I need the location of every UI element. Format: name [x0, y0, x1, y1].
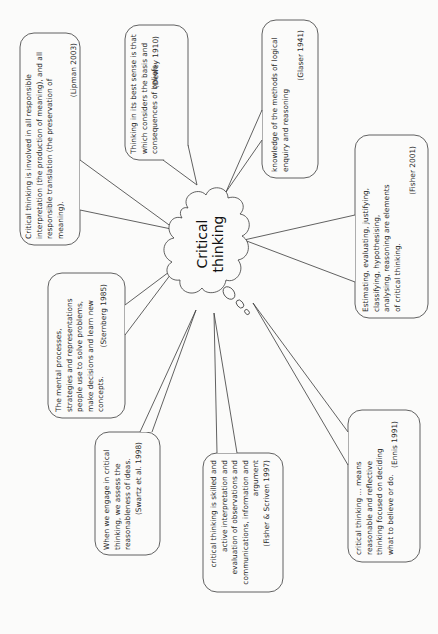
bubble-fisher-2001-text: Estimating, evaluating, justifying, clas… — [361, 182, 403, 312]
bubble-dewey-content: Thinking in its best sense is that which… — [129, 32, 185, 154]
bubble-ennis: critical thinking ... means reasonable a… — [348, 410, 420, 562]
mind-map: Critical thinking Critical thinking is i… — [0, 0, 438, 634]
bubble-swartz-content: When we engage in critical thinking, we … — [102, 438, 154, 550]
bubble-swartz: When we engage in critical thinking, we … — [95, 432, 160, 555]
bubble-swartz-text: When we engage in critical thinking, we … — [102, 438, 134, 550]
central-topic-label: Critical thinking — [194, 216, 226, 273]
bubble-swartz-citation: (Swartz et al. 1998) — [133, 438, 144, 550]
bubble-fisher-2001: Estimating, evaluating, justifying, clas… — [355, 135, 428, 318]
bubble-glaser-text: knowledge of the methods of logical enqu… — [270, 26, 291, 172]
bubble-fisher-scriven-citation: (Fisher & Scriven 1997) — [262, 460, 273, 586]
bubble-ennis-content: critical thinking ... means reasonable a… — [354, 417, 414, 555]
bubble-sternberg-content: The mental processes, strategies and rep… — [54, 280, 120, 412]
bubble-fisher-scriven-content: critical thinking is skilled and active … — [209, 460, 277, 586]
central-topic: Critical thinking — [170, 196, 250, 292]
bubble-dewey: Thinking in its best sense is that which… — [125, 25, 188, 160]
bubble-fisher-scriven-text: critical thinking is skilled and active … — [209, 460, 262, 586]
central-topic-line1: Critical — [194, 216, 210, 273]
bubble-fisher-scriven: critical thinking is skilled and active … — [203, 453, 283, 592]
bubble-lipman-content: Critical thinking is involved in all res… — [24, 39, 76, 239]
bubble-fisher-2001-content: Estimating, evaluating, justifying, clas… — [361, 142, 423, 312]
bubble-glaser: knowledge of the methods of logical enqu… — [262, 20, 318, 178]
bubble-lipman-text: Critical thinking is involved in all res… — [24, 39, 66, 239]
bubble-glaser-citation: (Glaser 1941) — [296, 26, 307, 172]
bubble-glaser-content: knowledge of the methods of logical enqu… — [270, 26, 310, 172]
bubble-sternberg: The mental processes, strategies and rep… — [48, 273, 125, 418]
bubble-lipman: Critical thinking is involved in all res… — [20, 33, 80, 245]
central-topic-line2: thinking — [210, 216, 226, 273]
bubble-fisher-2001-citation: (Fisher 2001) — [408, 142, 419, 312]
bubble-lipman-citation: (Lipman 2003) — [69, 39, 80, 239]
